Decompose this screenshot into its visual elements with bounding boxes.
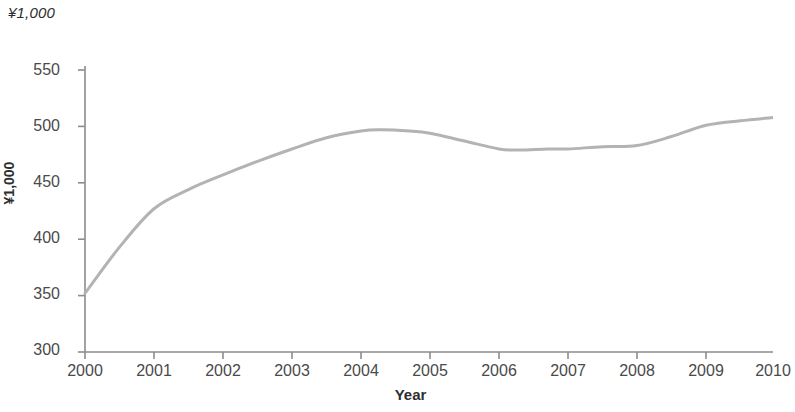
y-axis-ticks <box>78 70 85 352</box>
data-series-line <box>85 117 773 293</box>
x-axis-ticks <box>85 352 773 359</box>
axes <box>85 66 773 352</box>
